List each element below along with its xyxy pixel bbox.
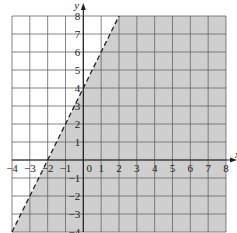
y-tick-label: 6 bbox=[75, 46, 81, 58]
y-tick-label: −4 bbox=[69, 226, 81, 233]
x-tick-label: 6 bbox=[188, 162, 194, 174]
y-tick-label: 3 bbox=[75, 100, 81, 112]
y-tick-label: −1 bbox=[69, 172, 81, 184]
x-tick-label: −4 bbox=[6, 162, 18, 174]
x-tick-label: 7 bbox=[205, 162, 211, 174]
y-tick-label: 5 bbox=[75, 64, 81, 76]
y-tick-label: −3 bbox=[69, 208, 81, 220]
x-tick-label: 1 bbox=[98, 162, 104, 174]
inequality-plot: −4−3−2−101234567887654321−1−2−3−4xy bbox=[0, 0, 237, 233]
x-tick-label: 5 bbox=[170, 162, 176, 174]
y-tick-label: 8 bbox=[75, 10, 81, 22]
x-tick-label: 4 bbox=[152, 162, 158, 174]
y-axis-label: y bbox=[73, 0, 79, 11]
y-tick-label: 1 bbox=[75, 136, 81, 148]
x-tick-label: 8 bbox=[223, 162, 229, 174]
y-tick-label: 7 bbox=[75, 28, 81, 40]
x-tick-label: 3 bbox=[134, 162, 140, 174]
y-tick-label: −2 bbox=[69, 190, 81, 202]
y-tick-label: 2 bbox=[75, 118, 81, 130]
y-tick-label: 4 bbox=[75, 82, 81, 94]
y-axis-arrow-icon bbox=[81, 3, 86, 10]
x-tick-label: 2 bbox=[116, 162, 122, 174]
x-tick-label: −2 bbox=[42, 162, 54, 174]
x-tick-label: 0 bbox=[87, 162, 93, 174]
x-tick-label: −3 bbox=[24, 162, 36, 174]
x-axis-label: x bbox=[234, 148, 237, 160]
